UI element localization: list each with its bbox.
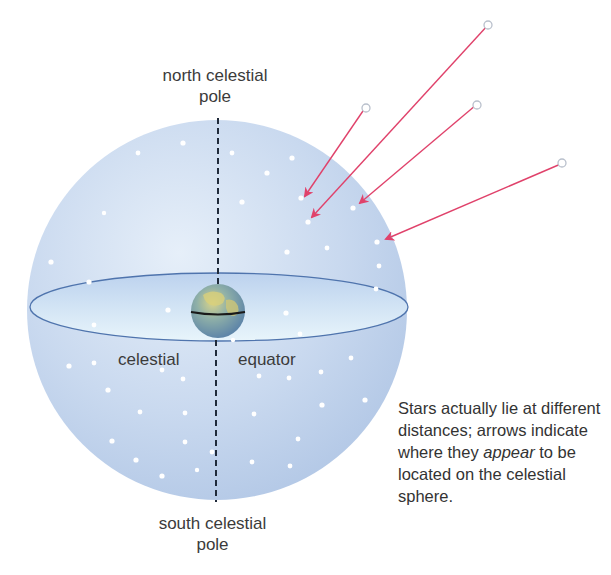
south-celestial-pole-label: south celestial pole: [140, 513, 285, 555]
north-pole-label-line2: pole: [145, 86, 285, 107]
south-pole-label-line2: pole: [140, 534, 285, 555]
earth-icon: [191, 284, 245, 338]
south-pole-label-line1: south celestial: [140, 513, 285, 534]
caption-text: Stars actually lie at different distance…: [398, 397, 608, 507]
north-pole-label-line1: north celestial: [145, 65, 285, 86]
equator-label-right: equator: [238, 349, 328, 370]
actual-star-positions: [362, 21, 566, 167]
equator-label-left: celestial: [118, 349, 208, 370]
caption-emphasis: appear: [483, 443, 534, 461]
north-celestial-pole-label: north celestial pole: [145, 65, 285, 107]
